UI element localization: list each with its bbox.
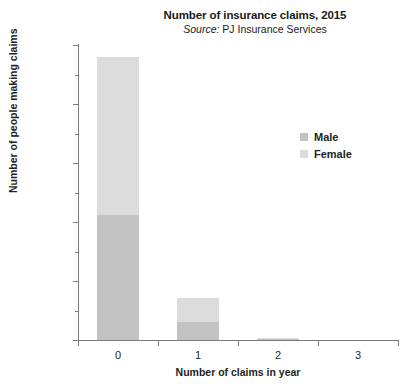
bar-segment-male [177,322,219,340]
bar-segment-female [177,298,219,322]
legend-swatch-icon [300,150,308,158]
x-tick [158,341,159,346]
bar-column [97,57,139,340]
x-tick-label: 2 [258,349,298,361]
chart-container: Number of insurance claims, 2015 Source:… [0,0,415,387]
chart-header: Number of insurance claims, 2015 Source:… [120,8,390,36]
x-tick [318,341,319,346]
chart-legend: MaleFemale [300,128,352,162]
legend-item: Male [300,128,352,145]
legend-swatch-icon [300,133,308,141]
chart-source-text: PJ Insurance Services [222,23,326,35]
chart-source-prefix: Source: [183,23,219,35]
bar-segment-female [97,57,139,215]
bar-segment-male [97,215,139,340]
plot-area [78,45,398,340]
chart-title: Number of insurance claims, 2015 [120,8,390,22]
x-tick [78,341,79,346]
bar-column [257,338,299,340]
bar-segment-male [257,339,299,340]
bar-column [177,298,219,340]
x-tick-label: 1 [178,349,218,361]
legend-label: Male [314,131,338,143]
x-tick-label: 0 [98,349,138,361]
chart-subtitle: Source: PJ Insurance Services [120,22,390,36]
x-axis-title: Number of claims in year [78,366,398,378]
x-tick [238,341,239,346]
legend-label: Female [314,148,352,160]
x-tick-label: 3 [338,349,378,361]
y-axis-title: Number of people making claims [7,0,19,193]
x-tick [398,341,399,346]
legend-item: Female [300,145,352,162]
